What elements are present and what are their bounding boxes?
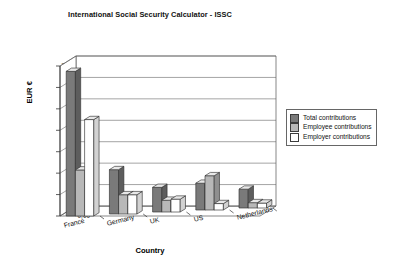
legend-swatch-total xyxy=(290,114,299,123)
chart-legend: Total contributions Employee contributio… xyxy=(286,109,377,146)
legend-label: Employer contributions xyxy=(303,134,370,141)
legend-label: Total contributions xyxy=(303,115,356,122)
x-axis-tick-label: UK xyxy=(149,216,160,225)
chart-title: International Social Security Calculator… xyxy=(0,10,300,19)
legend-item: Total contributions xyxy=(290,114,372,123)
x-axis-tick-label: Netherlands xyxy=(236,205,273,221)
x-axis-tick-label: France xyxy=(63,217,85,229)
legend-swatch-employee xyxy=(290,123,299,132)
x-axis-tick-label: Germany xyxy=(106,213,135,227)
legend-swatch-employer xyxy=(290,133,299,142)
legend-item: Employer contributions xyxy=(290,133,372,142)
x-axis-tick-labels: FranceGermanyUKUSNetherlands xyxy=(40,24,320,254)
legend-label: Employee contributions xyxy=(303,124,372,131)
x-axis-tick-label: US xyxy=(193,214,204,223)
y-axis-title: EUR € xyxy=(25,90,34,104)
chart-figure: International Social Security Calculator… xyxy=(0,0,414,268)
legend-item: Employee contributions xyxy=(290,123,372,132)
